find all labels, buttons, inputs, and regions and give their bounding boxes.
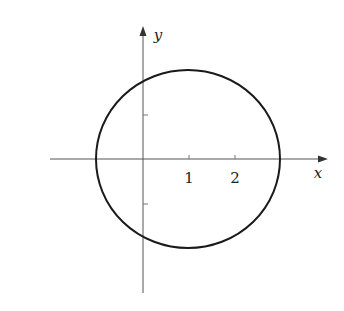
x-tick-label-1: 1 xyxy=(184,169,194,187)
x-tick-label-2: 2 xyxy=(230,169,240,187)
y-axis-arrow-icon xyxy=(140,26,147,36)
x-axis-label: x xyxy=(314,164,323,182)
y-axis-label: y xyxy=(153,26,163,44)
diagram-canvas: 1 2 x y xyxy=(0,0,344,311)
x-axis-arrow-icon xyxy=(318,156,328,163)
